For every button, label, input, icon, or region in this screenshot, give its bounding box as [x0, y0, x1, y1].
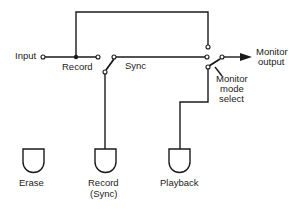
sync-label: Sync: [125, 61, 146, 71]
playback-head-wire: [180, 68, 208, 149]
monitor-output-label-2: output: [258, 57, 284, 67]
record-sync-switch-arm: [106, 59, 114, 70]
monitor-output-terminal: [220, 55, 224, 59]
monitor-mode-label-3: select: [219, 94, 244, 104]
monitor-top-terminal: [206, 45, 210, 49]
monitor-sync-terminal: [205, 55, 209, 59]
record-head-label-2: (Sync): [90, 189, 117, 199]
sync-terminal: [112, 55, 116, 59]
monitor-playback-terminal: [206, 65, 210, 69]
monitor-switch-arm: [209, 59, 220, 66]
record-head-label-1: Record: [88, 178, 119, 188]
circuit-diagram: [0, 0, 302, 211]
record-terminal: [96, 55, 100, 59]
record-label: Record: [62, 62, 93, 72]
junction-dot: [74, 55, 78, 59]
record-switch-pivot: [103, 70, 107, 74]
playback-head-label: Playback: [160, 178, 199, 188]
erase-head-icon: [23, 149, 44, 173]
top-bypass-wire: [76, 12, 208, 57]
erase-head-label: Erase: [19, 178, 44, 188]
output-arrow-icon: [240, 53, 252, 61]
input-terminal: [41, 55, 45, 59]
record-head-icon: [95, 149, 116, 173]
playback-head-icon: [169, 149, 190, 173]
input-label: Input: [15, 51, 36, 61]
